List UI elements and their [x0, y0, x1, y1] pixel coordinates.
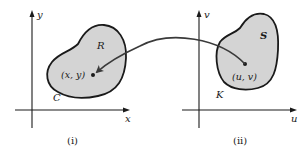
point-xy-label: (x, y)	[61, 69, 85, 80]
x-axis-label: x	[125, 113, 131, 124]
boundary-c-label: C	[53, 92, 61, 103]
panel-i-caption: (i)	[67, 135, 78, 146]
x-axis-arrow-icon	[123, 108, 130, 113]
region-r	[47, 25, 126, 98]
point-uv-label: (u, v)	[232, 71, 257, 82]
region-r-label: R	[96, 40, 105, 51]
region-s-label: S	[260, 30, 267, 41]
y-axis-label: y	[36, 9, 43, 20]
panel-xy: y x R C (x, y) (i)	[15, 9, 131, 146]
u-axis-label: u	[291, 113, 297, 124]
panel-uv: v u S K (u, v) (ii)	[182, 9, 297, 146]
y-axis-arrow-icon	[30, 10, 35, 17]
u-axis-arrow-icon	[290, 108, 297, 113]
v-axis-arrow-icon	[197, 10, 202, 17]
point-xy	[91, 73, 95, 77]
boundary-k-label: K	[215, 89, 224, 100]
v-axis-label: v	[204, 9, 210, 20]
panel-ii-caption: (ii)	[233, 135, 247, 146]
mapping-diagram: y x R C (x, y) (i) v u S K (u, v) (ii)	[0, 0, 307, 156]
